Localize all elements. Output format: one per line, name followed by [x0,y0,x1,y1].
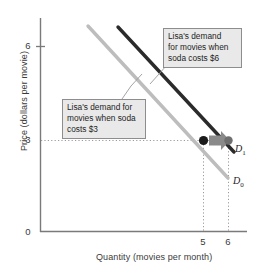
x-tick-label-5: 5 [195,236,211,247]
y-axis-title: Price (dollars per movie) [19,31,29,171]
callout-soda6-line1: Lisa's demand [168,31,238,42]
callout-soda3-line3: costs $3 [67,124,142,135]
point-d0-at-price-3 [199,136,208,145]
x-tick-label-6: 6 [220,236,236,247]
curve-label-d1: D1 [235,143,246,157]
callout-soda-costs-3: Lisa's demand for movies when soda costs… [62,99,146,139]
callout-soda3-leader [122,74,142,99]
x-axis-title: Quantity (movies per month) [96,252,212,262]
y-tick-label-3: 3 [20,134,36,145]
y-tick-label-6: 6 [20,40,36,51]
demand-shift-chart: Price (dollars per movie) Quantity (movi… [0,0,266,269]
callout-soda6-line2: for movies when [168,42,238,53]
origin-label: 0 [20,226,36,237]
point-d1-at-price-3 [224,136,232,144]
callout-soda3-line2: movies when soda [67,113,142,124]
callout-soda3-line1: Lisa's demand for [67,102,142,113]
callout-soda6-line3: soda costs $6 [168,53,238,64]
curve-label-d0: D0 [233,175,244,189]
callout-soda-costs-6: Lisa's demand for movies when soda costs… [163,28,242,68]
curve-label-d1-sub: 1 [242,149,246,157]
curve-label-d0-sub: 0 [240,181,244,189]
